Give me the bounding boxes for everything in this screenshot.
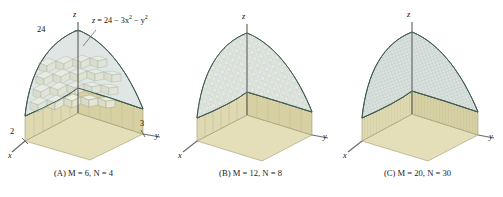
y-axis-label-a: y: [155, 131, 159, 140]
equation-equals: =: [97, 16, 102, 25]
x-axis-label-b: x: [178, 151, 182, 160]
surface-plot-a: [0, 0, 167, 168]
plot-a: [0, 0, 167, 168]
x-axis-b: [183, 141, 197, 152]
equation-rhs: 24 − 3x: [104, 16, 129, 25]
z-axis-label-a: z: [73, 10, 76, 19]
equation-z: z: [92, 16, 95, 25]
plot-c: [334, 0, 501, 168]
x-axis-label-a: x: [8, 151, 12, 160]
y-tick-label-3: 3: [140, 119, 144, 128]
equation-exp2: 2: [145, 14, 148, 20]
surface-equation-label: z = 24 − 3x2 − y2: [92, 14, 148, 25]
panel-b: z x y (B) M = 12, N = 8: [167, 0, 334, 197]
equation-minus-y: − y: [132, 16, 145, 25]
z-axis-label-b: z: [242, 12, 245, 21]
y-axis-label-b: y: [323, 132, 327, 141]
z-axis-label-c: z: [407, 10, 410, 19]
x-axis-c: [348, 141, 362, 152]
caption-a: (A) M = 6, N = 4: [0, 168, 167, 179]
x-axis-label-c: x: [343, 151, 347, 160]
caption-b: (B) M = 12, N = 8: [167, 168, 334, 179]
surface-plot-b: [167, 0, 334, 168]
panel-c: z x y (C) M = 20, N = 30: [334, 0, 501, 197]
riemann-sum-figure: z = 24 − 3x2 − y2 z x y 24 2 3 (A) M = 6…: [0, 0, 503, 197]
x-axis-a: [12, 141, 25, 152]
panel-a: z = 24 − 3x2 − y2 z x y 24 2 3 (A) M = 6…: [0, 0, 167, 197]
surface-plot-c: [334, 0, 501, 168]
y-axis-label-c: y: [489, 132, 493, 141]
x-tick-label-2: 2: [10, 127, 14, 136]
z-tick-label-24: 24: [37, 25, 45, 34]
caption-c: (C) M = 20, N = 30: [334, 168, 501, 179]
plot-b: [167, 0, 334, 168]
